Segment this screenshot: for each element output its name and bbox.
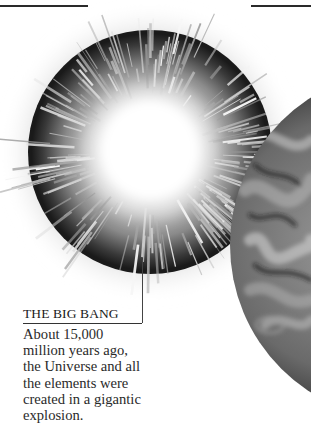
explosion-ray [228,141,241,143]
explosion-ray [148,28,149,65]
explosion-core-bright [100,100,200,200]
caption: THE BIG BANG About 15,000 million years … [23,306,193,423]
caption-line: About 15,000 [23,326,193,342]
explosion-ray [153,19,154,51]
caption-body: About 15,000 million years ago, the Univ… [23,326,193,423]
caption-line: explosion. [23,407,193,423]
caption-line: the Universe and all [23,358,193,374]
explosion-ray [148,237,149,294]
caption-title-underline [23,323,142,324]
explosion-ray [152,228,153,253]
caption-line: the elements were [23,375,193,391]
caption-line: million years ago, [23,342,193,358]
caption-title: THE BIG BANG [23,306,142,323]
caption-line: created in a gigantic [23,391,193,407]
